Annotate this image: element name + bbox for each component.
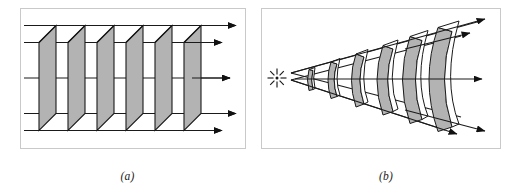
wavefront-plane-4 (126, 26, 143, 131)
wavefront-plane-2 (68, 26, 85, 131)
panel-b-spherical-waves: (b) (255, 0, 517, 183)
wavefront-figure: (a) (0, 0, 517, 183)
wavefront-plane-3 (97, 26, 114, 131)
starburst-icon (268, 69, 287, 88)
spherical-wave-drawing (255, 0, 517, 183)
wavefront-plane-5 (155, 26, 172, 131)
wavefront-plane-1 (39, 26, 56, 131)
point-source (268, 69, 287, 88)
panel-b-caption: (b) (255, 170, 517, 182)
panel-a-plane-waves: (a) (0, 0, 255, 183)
plane-wave-drawing (0, 0, 255, 183)
panel-a-caption: (a) (0, 170, 255, 182)
